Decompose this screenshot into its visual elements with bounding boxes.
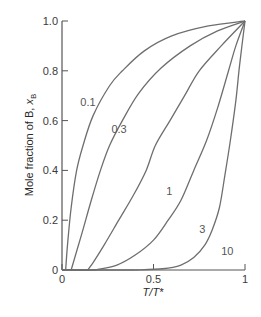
- curve-10: [135, 21, 245, 270]
- curve-label-0.1: 0.1: [80, 96, 95, 108]
- x-tick-label: 0.5: [146, 273, 161, 285]
- y-tick-label: 1.0: [43, 15, 58, 27]
- x-axis-title: T/T*: [143, 286, 164, 298]
- y-axis-title: Mole fraction of B, xB: [23, 94, 38, 197]
- axes: 00.20.40.60.81.000.51: [43, 15, 248, 285]
- curves: [62, 21, 245, 270]
- curve-label-10: 10: [221, 245, 233, 257]
- y-tick-label: 0.6: [43, 115, 58, 127]
- curve-label-3: 3: [199, 223, 205, 235]
- curve-label-0.3: 0.3: [111, 123, 126, 135]
- y-tick-label: 0.4: [43, 164, 58, 176]
- x-tick-label: 0: [59, 273, 65, 285]
- curve-1: [88, 21, 245, 270]
- x-tick-label: 1: [242, 273, 248, 285]
- y-tick-label: 0: [52, 264, 58, 276]
- curve-label-1: 1: [166, 185, 172, 197]
- y-tick-label: 0.8: [43, 65, 58, 77]
- curve-3: [95, 21, 245, 270]
- curve-0.3: [71, 21, 245, 270]
- y-tick-label: 0.2: [43, 214, 58, 226]
- mole-fraction-chart: 00.20.40.60.81.000.51 0.10.31310 T/T* Mo…: [0, 0, 261, 317]
